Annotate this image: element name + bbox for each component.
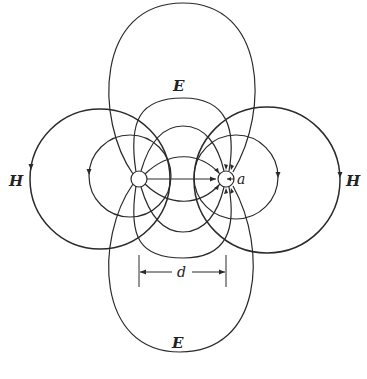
arrow-icon <box>338 172 343 178</box>
arrow-icon <box>87 169 92 175</box>
e-line-top-mid <box>134 98 232 172</box>
arrow-icon <box>224 164 228 170</box>
h-field-lines <box>29 107 343 253</box>
label-h-right: H <box>345 172 361 190</box>
e-line-bottom-near <box>145 184 220 201</box>
arrow-icon <box>230 164 234 170</box>
arrow-icon <box>140 270 146 275</box>
label-radius: a <box>237 171 245 187</box>
e-line-top-near <box>145 157 220 174</box>
arrow-icon <box>219 270 225 275</box>
arrow-icon <box>230 188 234 194</box>
h-line-right-outer <box>194 107 340 253</box>
label-e-top: E <box>172 77 185 95</box>
h-line-right-inner <box>194 135 278 219</box>
arrow-icon <box>224 188 228 194</box>
left-conductor <box>131 171 147 187</box>
arrow-icon <box>29 164 34 170</box>
field-diagram: E E H H a d <box>0 0 367 379</box>
label-h-left: H <box>8 172 24 190</box>
label-e-bottom: E <box>171 334 184 352</box>
arrow-icon <box>276 172 281 178</box>
arrow-icon <box>210 177 216 182</box>
h-line-left-inner <box>89 135 171 217</box>
e-line-bottom-mid <box>134 186 232 258</box>
label-separation: d <box>177 264 186 280</box>
